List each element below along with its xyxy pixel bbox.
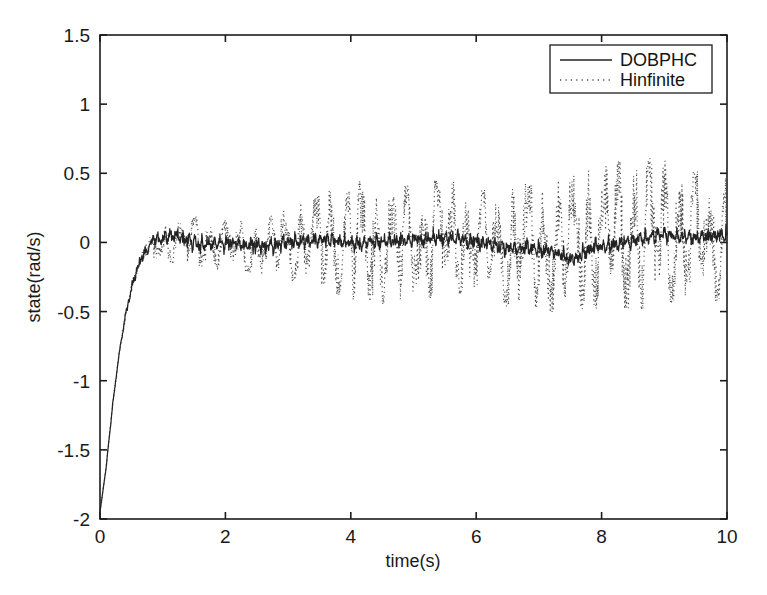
legend-label-dobphc: DOBPHC	[620, 50, 697, 70]
y-tick-label: -2	[73, 509, 90, 530]
y-tick-label: 1	[79, 94, 90, 115]
legend: DOBPHC Hinfinite	[550, 45, 712, 93]
x-tick-label: 8	[596, 526, 607, 547]
y-tick-label: 0	[79, 232, 90, 253]
y-axis-title: state(rad/s)	[24, 231, 44, 322]
x-tick-label: 0	[95, 526, 106, 547]
y-tick-label: 1.5	[64, 25, 90, 46]
figure-canvas: 0246810 -2-1.5-1-0.500.511.5 time(s) sta…	[0, 0, 767, 595]
y-tick-label: -1.5	[57, 440, 90, 461]
x-tick-label: 2	[220, 526, 231, 547]
y-tick-label: -0.5	[57, 302, 90, 323]
x-tick-label: 4	[346, 526, 357, 547]
x-axis-title: time(s)	[386, 551, 441, 571]
x-tick-label: 6	[471, 526, 482, 547]
legend-label-hinfinite: Hinfinite	[620, 70, 685, 90]
x-tick-label: 10	[716, 526, 737, 547]
y-tick-label: 0.5	[64, 163, 90, 184]
y-tick-label: -1	[73, 371, 90, 392]
